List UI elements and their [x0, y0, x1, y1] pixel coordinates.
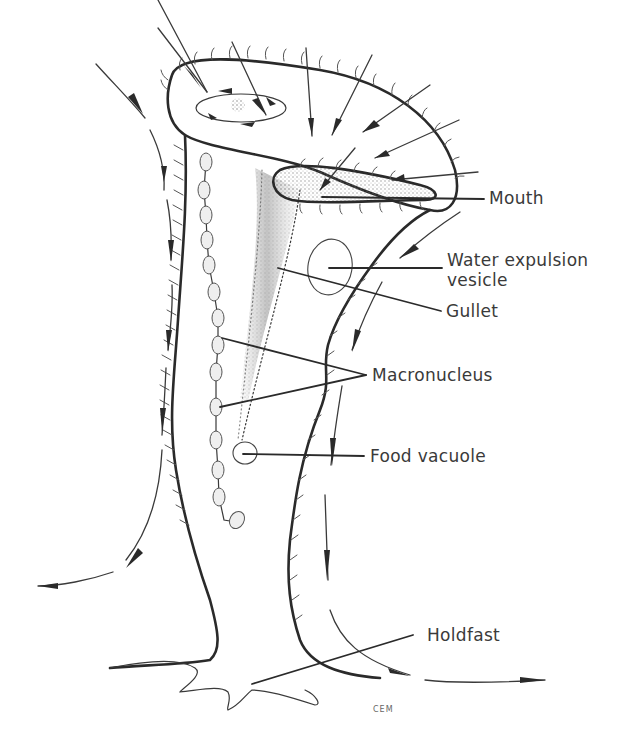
label-holdfast: Holdfast — [427, 625, 500, 645]
label-water-expulsion-vesicle-line1: Water expulsion — [447, 250, 588, 270]
artist-signature: CEM — [373, 705, 394, 714]
label-gullet: Gullet — [446, 301, 498, 321]
food-vacuole — [233, 442, 257, 464]
water-current-arrows — [38, 0, 545, 683]
water-expulsion-vesicle — [303, 236, 356, 299]
label-water-expulsion-vesicle-line2: vesicle — [447, 270, 588, 290]
gullet-region — [238, 168, 300, 440]
label-food-vacuole: Food vacuole — [370, 446, 486, 466]
label-macronucleus: Macronucleus — [372, 365, 493, 385]
leader-holdfast — [252, 635, 413, 684]
stentor-diagram — [0, 0, 634, 739]
label-mouth: Mouth — [489, 188, 544, 208]
leader-gullet — [278, 268, 441, 311]
leader-food-vacuole — [243, 454, 364, 456]
stippled-spot — [231, 98, 245, 112]
label-water-expulsion-vesicle: Water expulsion vesicle — [447, 250, 588, 290]
